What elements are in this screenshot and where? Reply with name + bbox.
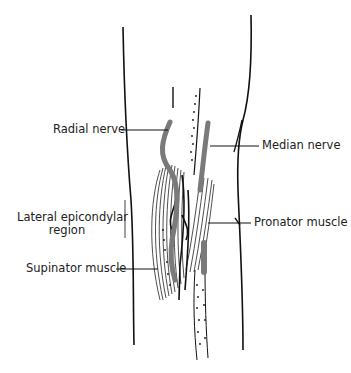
arm-outline-right [238, 15, 252, 350]
pronator-muscle-label: Pronator muscle [254, 216, 348, 229]
lateral-epicondylar-label-line2: region [17, 224, 117, 237]
arm-outline-left [123, 27, 134, 345]
lateral-epicondylar-label: Lateral epicondylar region [17, 211, 117, 237]
radial-nerve-label: Radial nerve [53, 123, 125, 136]
median-nerve-label: Median nerve [262, 139, 340, 152]
supinator-muscle-label: Supinator muscle [26, 262, 126, 275]
forearm-illustration [0, 0, 351, 373]
anatomy-diagram: Radial nerve Median nerve Lateral epicon… [0, 0, 351, 373]
